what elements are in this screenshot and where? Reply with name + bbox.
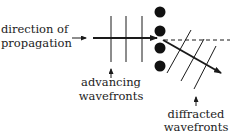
- diffracted-label-line2: wavefronts: [164, 120, 229, 132]
- advancing-label-line2: wavefronts: [79, 89, 144, 103]
- diffracted-ray-arrow: [163, 40, 221, 73]
- barrier-dot-1: [155, 7, 166, 18]
- diffraction-diagram: direction of propagation advancing wavef…: [0, 0, 235, 132]
- direction-label-line1: direction of: [1, 22, 69, 36]
- diffracted-wavefront-2: [181, 39, 204, 81]
- advancing-label-line1: advancing: [81, 75, 142, 89]
- barrier-dot-3: [155, 43, 166, 54]
- diffracted-wavefronts: [167, 30, 216, 89]
- direction-of-propagation-label: direction of propagation: [1, 22, 72, 50]
- diffracted-wavefront-1: [167, 30, 191, 73]
- diffracted-label-line1: diffracted: [168, 107, 225, 121]
- barrier-dot-2: [155, 26, 166, 37]
- barrier-dot-4: [155, 61, 166, 72]
- diffracted-wavefronts-label: diffracted wavefronts: [164, 107, 229, 132]
- direction-label-line2: propagation: [1, 36, 72, 50]
- advancing-wavefronts-label: advancing wavefronts: [79, 75, 144, 103]
